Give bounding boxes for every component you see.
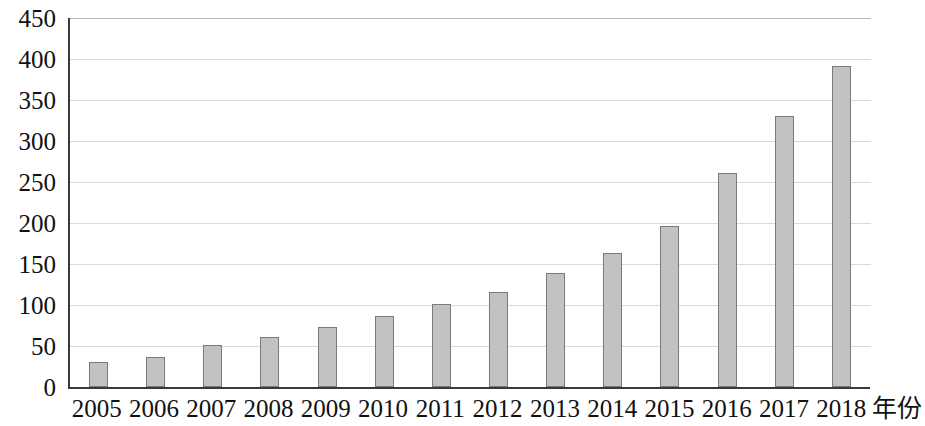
bar[interactable] [375, 316, 394, 387]
x-tick-label: 2005 [68, 392, 125, 426]
y-tick-label: 350 [19, 88, 57, 113]
y-tick-label: 100 [19, 293, 57, 318]
bar-slot [756, 18, 813, 387]
bar[interactable] [318, 327, 337, 387]
x-tick-label: 2018 [813, 392, 870, 426]
bar[interactable] [718, 173, 737, 387]
bar-slot [584, 18, 641, 387]
bar-slot [184, 18, 241, 387]
bar-slot [70, 18, 127, 387]
bar[interactable] [260, 337, 279, 387]
bar-slot [413, 18, 470, 387]
bar-slot [641, 18, 698, 387]
y-tick-label: 400 [19, 47, 57, 72]
x-tick-label: 2010 [354, 392, 411, 426]
bar[interactable] [89, 362, 108, 387]
bar-slot [470, 18, 527, 387]
x-tick-label: 2008 [240, 392, 297, 426]
x-tick-label: 2012 [469, 392, 526, 426]
y-tick-label: 0 [44, 375, 57, 400]
bar[interactable] [146, 357, 165, 387]
x-axis-tick-labels: 2005200620072008200920102011201220132014… [68, 392, 870, 426]
bar[interactable] [603, 253, 622, 387]
bar-slot [813, 18, 870, 387]
bar[interactable] [832, 66, 851, 387]
bar-slot [127, 18, 184, 387]
y-axis-tick-labels: 050100150200250300350400450 [0, 0, 62, 426]
bar[interactable] [775, 116, 794, 387]
bar-slot [527, 18, 584, 387]
bar[interactable] [432, 304, 451, 387]
x-tick-label: 2009 [297, 392, 354, 426]
bar[interactable] [489, 292, 508, 387]
bar[interactable] [660, 226, 679, 387]
y-tick-label: 450 [19, 6, 57, 31]
x-tick-label: 2013 [526, 392, 583, 426]
x-tick-label: 2015 [641, 392, 698, 426]
bar[interactable] [546, 273, 565, 387]
x-axis-title: 年份 [872, 392, 922, 426]
x-tick-label: 2016 [698, 392, 755, 426]
x-tick-label: 2007 [183, 392, 240, 426]
x-tick-label: 2006 [125, 392, 182, 426]
bar-slot [241, 18, 298, 387]
bar-slot [356, 18, 413, 387]
bar-slot [699, 18, 756, 387]
bar[interactable] [203, 345, 222, 387]
y-tick-label: 200 [19, 211, 57, 236]
plot-area [68, 18, 870, 389]
bar-chart: 050100150200250300350400450 200520062007… [0, 0, 925, 426]
y-tick-label: 300 [19, 129, 57, 154]
x-tick-label: 2017 [755, 392, 812, 426]
y-tick-label: 50 [31, 334, 56, 359]
y-tick-label: 150 [19, 252, 57, 277]
x-tick-label: 2014 [584, 392, 641, 426]
x-tick-label: 2011 [412, 392, 469, 426]
bar-series [70, 18, 870, 387]
bar-slot [299, 18, 356, 387]
y-tick-label: 250 [19, 170, 57, 195]
